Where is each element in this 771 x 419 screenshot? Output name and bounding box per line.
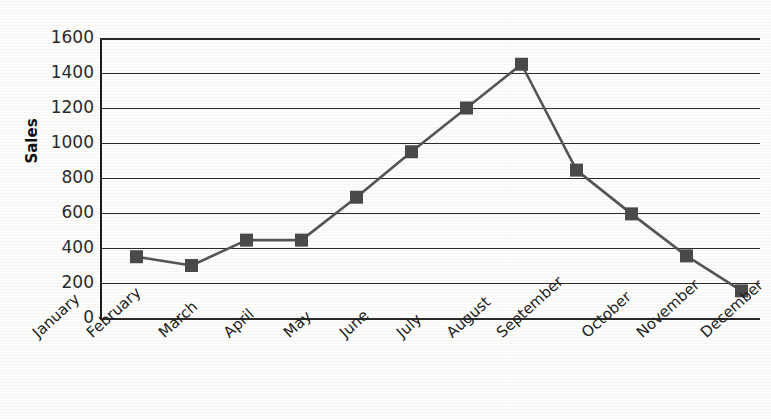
chart-figure: Sales 1600 1400 1200 1000 800 600 400 20… (0, 0, 771, 419)
data-point-marker (405, 145, 418, 158)
y-tick-label: 800 (38, 169, 94, 186)
y-tick-label: 1000 (38, 134, 94, 151)
data-point-marker (295, 234, 308, 247)
y-tick-label: 1200 (38, 99, 94, 116)
y-tick-label: 200 (38, 274, 94, 291)
chart-title-cropped (0, 0, 771, 16)
data-point-marker (185, 259, 198, 272)
y-tick-label: 1600 (38, 29, 94, 46)
data-point-marker (240, 234, 253, 247)
y-tick-label: 400 (38, 239, 94, 256)
series-sales (100, 38, 760, 318)
y-tick-label: 1400 (38, 64, 94, 81)
data-point-marker (515, 58, 528, 71)
y-tick-label: 600 (38, 204, 94, 221)
data-point-marker (460, 102, 473, 115)
data-point-marker (130, 250, 143, 263)
x-axis-tick-labels: January February March April May June Ju… (0, 320, 771, 419)
data-point-marker (625, 207, 638, 220)
plot-area (100, 38, 760, 318)
data-point-marker (570, 164, 583, 177)
data-point-marker (680, 249, 693, 262)
data-point-marker (350, 191, 363, 204)
